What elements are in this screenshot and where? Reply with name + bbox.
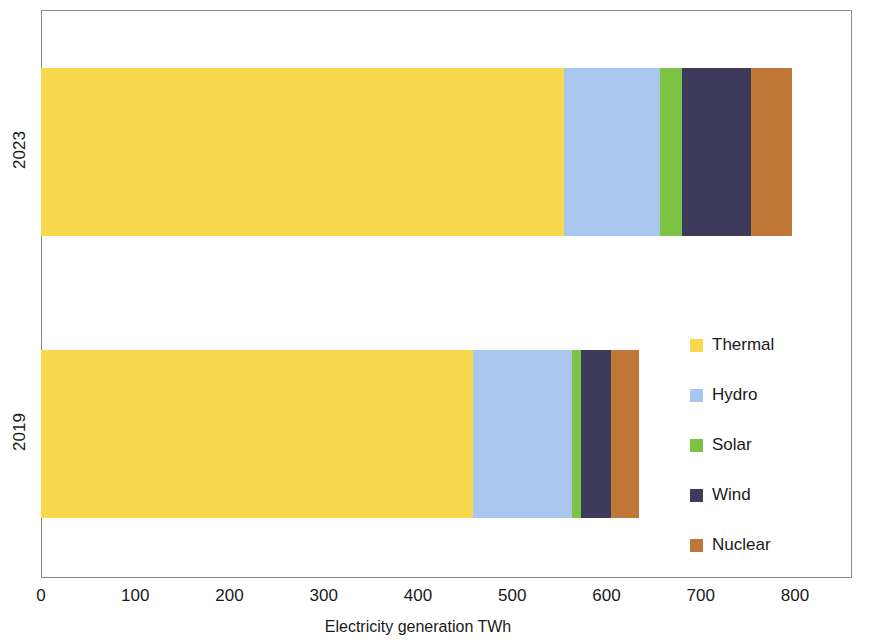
chart-legend: ThermalHydroSolarWindNuclear [690,320,840,570]
y-tick-label-2019: 2019 [0,422,40,442]
y-tick-label-text: 2019 [10,413,30,451]
bar-segment-thermal [41,350,473,518]
legend-item-thermal[interactable]: Thermal [690,320,840,370]
bar-segment-wind [581,350,611,518]
chart-container: 20232019 0100200300400500600700800 Elect… [0,0,869,644]
x-tick-label: 300 [294,586,354,606]
x-tick-label: 400 [388,586,448,606]
bar-segment-nuclear [751,68,792,236]
stacked-bar-2019 [41,350,639,518]
x-tick-label: 200 [200,586,260,606]
y-tick-label-2023: 2023 [0,140,40,160]
bar-segment-nuclear [611,350,638,518]
legend-label: Nuclear [712,535,771,555]
x-tick-label: 700 [671,586,731,606]
x-tick-label: 600 [577,586,637,606]
x-tick-label: 500 [482,586,542,606]
legend-swatch-icon [690,539,703,552]
legend-swatch-icon [690,339,703,352]
bar-segment-wind [682,68,751,236]
legend-swatch-icon [690,489,703,502]
x-tick-label: 0 [11,586,71,606]
bar-segment-thermal [41,68,564,236]
legend-item-wind[interactable]: Wind [690,470,840,520]
x-axis-title: Electricity generation TWh [41,618,795,636]
legend-item-solar[interactable]: Solar [690,420,840,470]
legend-label: Solar [712,435,752,455]
legend-swatch-icon [690,389,703,402]
y-tick-label-text: 2023 [10,131,30,169]
x-tick-label: 800 [765,586,825,606]
bar-segment-hydro [564,68,660,236]
legend-swatch-icon [690,439,703,452]
stacked-bar-2023 [41,68,792,236]
legend-label: Thermal [712,335,774,355]
x-tick-label: 100 [105,586,165,606]
legend-item-hydro[interactable]: Hydro [690,370,840,420]
legend-item-nuclear[interactable]: Nuclear [690,520,840,570]
legend-label: Wind [712,485,751,505]
bar-segment-solar [572,350,581,518]
bar-segment-solar [660,68,682,236]
legend-label: Hydro [712,385,757,405]
bar-segment-hydro [473,350,572,518]
